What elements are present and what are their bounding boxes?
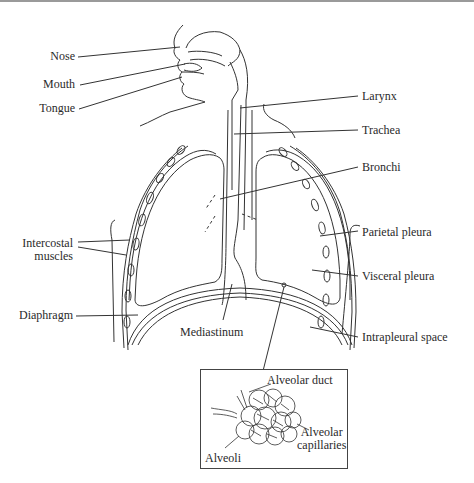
airway <box>222 105 252 305</box>
label-bronchi: Bronchi <box>362 161 401 174</box>
label-alveolar-capillaries: Alveolar capillaries <box>297 426 346 452</box>
label-tongue: Tongue <box>20 102 75 115</box>
label-mouth: Mouth <box>20 78 75 91</box>
right-lung <box>256 146 360 350</box>
label-trachea: Trachea <box>362 124 400 137</box>
label-parietal-pleura: Parietal pleura <box>362 226 432 239</box>
left-lung <box>111 146 224 350</box>
label-intercostal-muscles: Intercostal muscles <box>0 237 73 263</box>
bronchi-dashes <box>205 195 258 232</box>
label-alveoli: Alveoli <box>205 452 241 465</box>
label-mediastinum: Mediastinum <box>180 326 243 339</box>
label-larynx: Larynx <box>362 90 397 103</box>
label-intrapleural-space: Intrapleural space <box>362 331 448 344</box>
alveoli-inset: Alveolar duct Alveolar capillaries Alveo… <box>200 369 348 469</box>
label-alveolar-duct: Alveolar duct <box>267 374 333 387</box>
label-nose: Nose <box>20 50 75 63</box>
label-intercostal-line2: muscles <box>0 250 73 263</box>
head-outline <box>140 25 295 230</box>
label-alveolar-capillaries-line2: capillaries <box>297 439 346 452</box>
respiratory-diagram: Nose Mouth Tongue Larynx Trachea Bronchi… <box>0 0 474 483</box>
label-visceral-pleura: Visceral pleura <box>362 270 434 283</box>
label-diaphragm: Diaphragm <box>0 309 73 322</box>
